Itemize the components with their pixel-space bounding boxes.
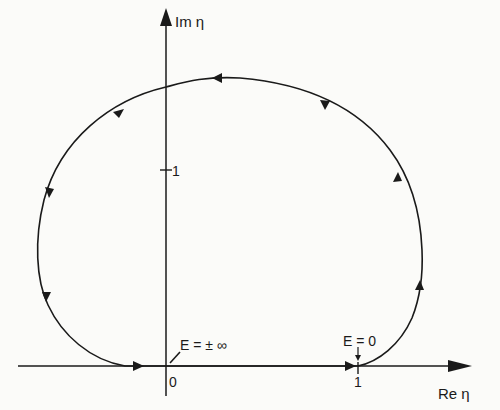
contour-curve [38, 78, 423, 366]
arrow-up-icon [393, 172, 402, 182]
arrow-right-icon [133, 361, 144, 371]
arrow-right-icon [345, 361, 356, 371]
arrow-left-icon [212, 73, 222, 83]
arrow-down-left-icon [113, 109, 124, 118]
imaginary-axis [160, 8, 172, 396]
x-tick-label-1: 1 [354, 375, 362, 389]
annotation-e-infinity: E = ± ∞ [180, 338, 227, 352]
arrow-up-left-icon [320, 100, 330, 110]
arrow-up-icon [415, 280, 424, 290]
e-infinity-pointer [170, 352, 180, 363]
real-axis-arrow-icon [448, 360, 472, 372]
x-tick-label-0: 0 [169, 375, 177, 389]
imaginary-axis-arrow-icon [160, 8, 172, 26]
x-axis-title: Re η [438, 386, 470, 401]
e-zero-pointer-arrow-icon [355, 355, 361, 361]
y-axis-title: Im η [175, 14, 204, 29]
annotation-e-zero: E = 0 [343, 334, 376, 348]
y-tick-label-1: 1 [172, 164, 180, 178]
arrow-down-icon [42, 292, 51, 302]
contour-diagram [0, 0, 500, 410]
